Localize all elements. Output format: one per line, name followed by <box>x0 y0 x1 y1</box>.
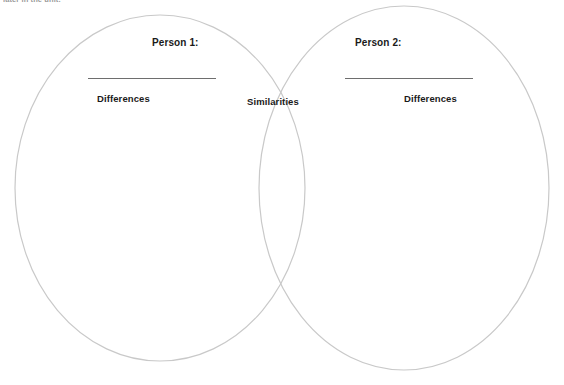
venn-diagram-worksheet: later in the unit. Person 1: Person 2: D… <box>0 0 564 385</box>
right-differences-label: Differences <box>404 93 457 104</box>
right-writing-rule <box>345 78 473 79</box>
person-2-heading: Person 2: <box>355 37 401 48</box>
person-1-heading: Person 1: <box>152 37 198 48</box>
left-differences-label: Differences <box>97 93 150 104</box>
venn-circles-graphic <box>0 0 564 385</box>
similarities-label: Similarities <box>247 96 299 107</box>
left-circle <box>15 15 305 361</box>
left-writing-rule <box>88 78 216 79</box>
